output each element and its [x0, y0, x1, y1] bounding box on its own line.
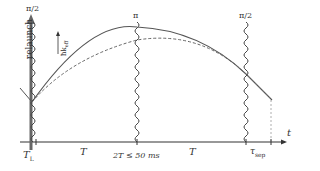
label-T-second: T: [189, 146, 196, 157]
momentum-hk: ħk: [60, 47, 68, 56]
pulse-label-2: π: [133, 11, 138, 20]
label-tau-sep: τsep: [250, 146, 265, 158]
label-tau-sub: sep: [255, 151, 265, 158]
label-TL-sub: L: [30, 155, 34, 162]
momentum-sub: eff: [63, 41, 69, 48]
momentum-arrowhead: [56, 31, 60, 36]
label-TL: TL: [23, 149, 34, 162]
momentum-label: ħkeff: [60, 41, 69, 56]
time-axis-label: t: [287, 127, 291, 138]
pulse-label-1: π/2: [26, 4, 39, 13]
relaunch-label: relaunch: [24, 14, 34, 64]
time-axis-arrowhead: [281, 140, 287, 145]
pulse-pi-half-2-wave: [244, 22, 248, 142]
label-2T-limit: 2T ≤ 50 ms: [113, 151, 160, 160]
label-T-first: T: [80, 146, 87, 157]
pulse-label-3: π/2: [239, 11, 252, 20]
label-TL-main: T: [23, 149, 30, 160]
solid-trajectory: [32, 26, 272, 102]
